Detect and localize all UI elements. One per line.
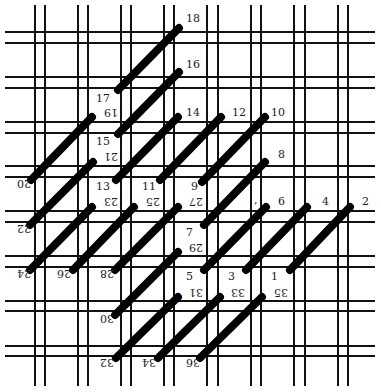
stitch-number-label: 6 xyxy=(278,195,285,208)
stitch-number-label: 13 xyxy=(96,180,110,193)
stitch-number-label: 27 xyxy=(189,195,203,208)
stitch-number-label: 21 xyxy=(104,150,118,163)
stitch-number-label: 5 xyxy=(186,270,193,283)
stitch-number-label: 16 xyxy=(186,58,200,71)
stitch-number-label: 4 xyxy=(322,195,329,208)
stitch-number-label: 18 xyxy=(186,12,200,25)
stitch-number-label: 1 xyxy=(271,270,278,283)
stitch-number-label: 15 xyxy=(96,135,110,148)
stitch-number-label: 23 xyxy=(104,195,118,208)
stitch-number-label: 26 xyxy=(57,267,71,280)
stitch-number-label: 8 xyxy=(278,148,285,161)
stitch-number-label: 17 xyxy=(96,92,110,105)
stitch-number-label: 31 xyxy=(189,286,203,299)
stitch-number-label: 9 xyxy=(191,180,198,193)
stitch-number-label: 7 xyxy=(186,226,193,239)
stitch-number-label: 22 xyxy=(17,222,31,235)
stitch-number-label: 3 xyxy=(228,270,235,283)
stitch-number-label: 20 xyxy=(17,177,31,190)
stitch-number-label: 36 xyxy=(186,356,200,369)
stitch-number-label: 14 xyxy=(186,106,200,119)
stitch-number-label: 10 xyxy=(271,106,285,119)
stitch-number-label: 35 xyxy=(274,286,288,299)
diagram-canvas: 123456,789101112131415161718192021222324… xyxy=(0,0,381,392)
stitch-number-label: 19 xyxy=(104,106,118,119)
stitch-number-label: 28 xyxy=(100,267,114,280)
stitch-number-label: 2 xyxy=(362,195,369,208)
stitch-number-label: 11 xyxy=(142,180,156,193)
stitch-number-label: 24 xyxy=(17,267,31,280)
stitch-number-label: 34 xyxy=(142,356,156,369)
stitch-number-label: 32 xyxy=(100,356,114,369)
stitch-number-label: 33 xyxy=(231,286,245,299)
stitch-number-label: , xyxy=(254,193,258,206)
stitch-number-label: 29 xyxy=(189,241,203,254)
stitch-number-label: 25 xyxy=(146,195,160,208)
stitch-number-label: 12 xyxy=(232,106,246,119)
stitch-number-label: 30 xyxy=(100,312,114,325)
stitch-diagram: 123456,789101112131415161718192021222324… xyxy=(0,0,381,392)
